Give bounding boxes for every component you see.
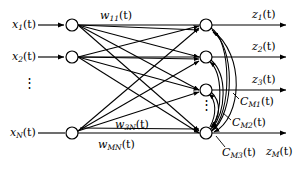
weight-label-wMN: wMN(t) — [98, 139, 135, 150]
weight-label-w11: w11(t) — [100, 10, 132, 21]
output-ellipsis: ⋮ — [200, 101, 212, 109]
output-node-2 — [200, 51, 212, 63]
input-feed-lines — [38, 25, 65, 133]
feedback-label-CM3: CM3(t) — [222, 147, 256, 158]
input-label-xN: xN(t) — [10, 127, 36, 138]
input-label-x2: x2(t) — [12, 51, 36, 62]
feedback-label-CM2: CM2(t) — [232, 117, 266, 128]
weight-label-w3N: w3N(t) — [115, 119, 149, 130]
output-nodes — [200, 19, 212, 139]
feedback-label-CM1: CM1(t) — [240, 96, 274, 107]
input-node-N — [66, 127, 78, 139]
output-label-z3: z3(t) — [252, 74, 276, 85]
input-node-1 — [66, 19, 78, 31]
output-node-3 — [200, 84, 212, 96]
output-label-z2: z2(t) — [252, 41, 276, 52]
output-node-1 — [200, 19, 212, 31]
input-nodes — [66, 19, 78, 139]
input-label-x1: x1(t) — [12, 19, 36, 30]
output-label-zM: zM(t) — [266, 146, 293, 157]
input-ellipsis: ⋮ — [22, 79, 36, 87]
neural-network-diagram: x1(t) x2(t) ⋮ xN(t) w11(t) w3N(t) wMN(t)… — [0, 0, 305, 170]
output-label-z1: z1(t) — [252, 9, 276, 20]
weight-edges — [78, 25, 199, 133]
input-node-2 — [66, 51, 78, 63]
output-node-M — [200, 127, 212, 139]
